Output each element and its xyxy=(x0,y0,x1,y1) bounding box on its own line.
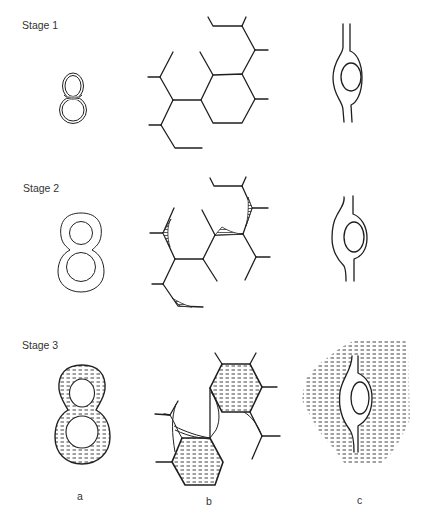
stage-3-figure-eight xyxy=(55,365,110,464)
stage-1-grain-network xyxy=(148,17,268,148)
stage-2-pore-channel xyxy=(332,196,367,281)
neck-hatch xyxy=(246,197,252,226)
diagram-canvas xyxy=(0,0,424,521)
stage-2-grain-network xyxy=(150,177,270,307)
stage-3-pore-channel-infiltrated xyxy=(302,340,410,464)
neck-hatch xyxy=(215,227,243,235)
stage-3-grain-network xyxy=(155,353,280,485)
stage-1-figure-eight xyxy=(60,73,87,124)
stage-1-pore-channel xyxy=(333,24,362,122)
stage-2-figure-eight xyxy=(58,213,104,292)
